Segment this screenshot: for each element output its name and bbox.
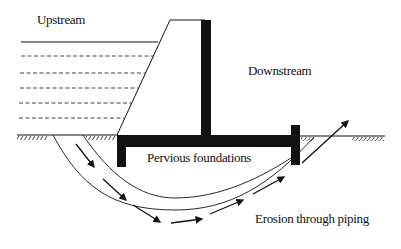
dam-body [117,20,211,137]
downstream-label: Downstream [248,63,311,79]
erosion-label: Erosion through piping [255,211,369,227]
pervious-foundations-label: Pervious foundations [147,150,251,166]
upstream-label: Upstream [37,12,85,28]
reservoir-water [19,42,158,118]
